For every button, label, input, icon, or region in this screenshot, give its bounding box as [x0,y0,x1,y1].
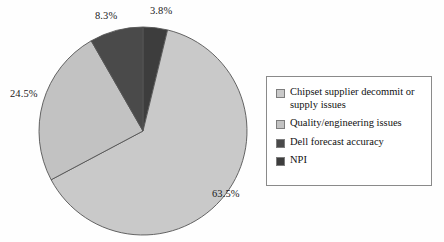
pie-svg [38,26,248,236]
legend-item-label: NPI [290,154,307,167]
slice-label-chipset-supplier: 63.5% [212,188,240,199]
slice-label-dell-forecast-accuracy: 8.3% [95,10,117,21]
legend-item-chipset-supplier[interactable]: Chipset supplier decommit or supply issu… [276,86,424,111]
pie-slice-group [39,27,247,235]
legend-item-label: Quality/engineering issues [290,117,402,130]
legend-item-quality-engineering[interactable]: Quality/engineering issues [276,117,424,130]
slice-label-npi: 3.8% [150,5,172,16]
legend-item-label: Dell forecast accuracy [290,136,384,149]
pie-chart-graphic [38,26,248,236]
pie-chart-figure: 3.8% 8.3% 24.5% 63.5% Chipset supplier d… [0,0,444,242]
legend-swatch-icon [276,157,285,166]
legend-item-npi[interactable]: NPI [276,154,424,167]
legend-swatch-icon [276,120,285,129]
chart-legend: Chipset supplier decommit or supply issu… [266,76,432,186]
legend-swatch-icon [276,89,285,98]
legend-swatch-icon [276,139,285,148]
legend-item-label: Chipset supplier decommit or supply issu… [290,86,424,111]
slice-label-quality-engineering-issues: 24.5% [10,88,38,99]
legend-item-dell-forecast-accuracy[interactable]: Dell forecast accuracy [276,136,424,149]
